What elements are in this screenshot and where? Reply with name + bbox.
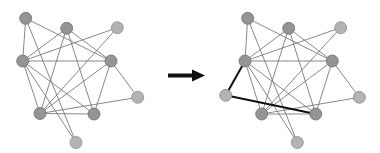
edge-E-F bbox=[332, 61, 359, 97]
node-E bbox=[326, 55, 338, 67]
graph-after bbox=[220, 12, 366, 148]
node-D bbox=[17, 55, 29, 67]
edge-B-G bbox=[262, 28, 289, 114]
new-node-J bbox=[220, 89, 232, 101]
graph-diagram bbox=[0, 0, 380, 153]
edge-D-G bbox=[23, 61, 40, 114]
edge-E-F bbox=[111, 61, 138, 97]
edge-E-H bbox=[316, 61, 333, 114]
edge-B-G bbox=[40, 28, 67, 113]
node-B bbox=[61, 22, 73, 34]
node-G bbox=[256, 108, 268, 120]
edge-E-G bbox=[40, 61, 111, 114]
new-edge-J-H bbox=[226, 95, 316, 114]
node-I bbox=[70, 137, 82, 149]
node-I bbox=[291, 137, 303, 149]
edge-A-I bbox=[26, 18, 76, 142]
edge-E-H bbox=[94, 61, 111, 114]
graph-before bbox=[17, 12, 144, 148]
edge-D-G bbox=[245, 61, 262, 114]
node-D bbox=[239, 55, 251, 67]
edge-A-D bbox=[23, 18, 26, 61]
node-H bbox=[88, 108, 100, 120]
edge-E-G bbox=[262, 61, 333, 114]
arrow-head bbox=[192, 70, 205, 82]
edge-B-D bbox=[245, 28, 289, 61]
node-F bbox=[132, 91, 144, 103]
node-A bbox=[242, 12, 254, 24]
edge-A-D bbox=[245, 18, 248, 61]
edge-C-G bbox=[40, 28, 117, 114]
edge-D-I bbox=[23, 61, 76, 143]
new-edges-after bbox=[226, 61, 316, 114]
node-H bbox=[310, 108, 322, 120]
node-C bbox=[111, 22, 123, 34]
edge-B-D bbox=[23, 28, 67, 61]
node-G bbox=[34, 108, 46, 120]
node-E bbox=[105, 55, 117, 67]
edges-before bbox=[23, 18, 138, 142]
node-A bbox=[20, 12, 32, 24]
node-F bbox=[353, 91, 365, 103]
edges-after bbox=[245, 18, 359, 142]
node-C bbox=[335, 22, 347, 34]
arrow-right-icon bbox=[168, 70, 205, 82]
node-B bbox=[283, 22, 295, 34]
edge-B-E bbox=[67, 28, 111, 61]
edge-G-H bbox=[40, 114, 94, 115]
